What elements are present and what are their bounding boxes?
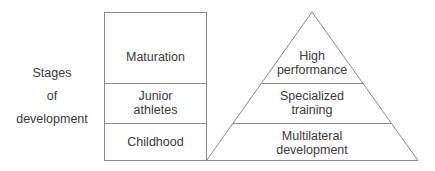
- pyramid-multilateral-line1: Multilateral: [262, 129, 362, 144]
- stage-junior-athletes-line2: athletes: [104, 103, 207, 118]
- pyramid-high-line2: performance: [262, 63, 362, 78]
- axis-label-development: development: [2, 112, 102, 127]
- axis-label-of: of: [2, 89, 102, 104]
- diagram-lines: [0, 0, 435, 171]
- pyramid-high-line1: High: [262, 49, 362, 64]
- stage-junior-athletes-line1: Junior: [104, 89, 207, 104]
- axis-label-stages: Stages: [2, 66, 102, 81]
- pyramid-multilateral-line2: development: [262, 143, 362, 158]
- stage-childhood: Childhood: [104, 135, 207, 150]
- pyramid-specialized-line1: Specialized: [262, 89, 362, 104]
- stage-maturation: Maturation: [104, 50, 207, 65]
- pyramid-specialized-line2: training: [262, 103, 362, 118]
